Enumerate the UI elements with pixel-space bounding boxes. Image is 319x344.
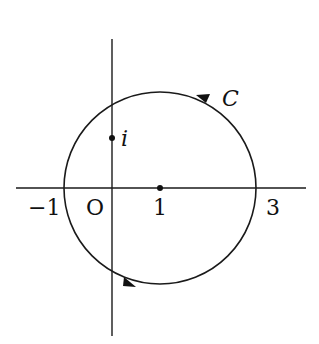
tick-label-one: 1: [153, 195, 167, 220]
center-point: [157, 185, 163, 191]
complex-plane-diagram: C i −1 O 1 3: [0, 0, 319, 344]
origin-label: O: [86, 195, 104, 220]
contour-label: C: [222, 86, 239, 111]
tick-label-three: 3: [266, 195, 280, 220]
point-i: [109, 135, 115, 141]
tick-label-neg-one: −1: [28, 195, 60, 220]
point-i-label: i: [121, 126, 128, 151]
